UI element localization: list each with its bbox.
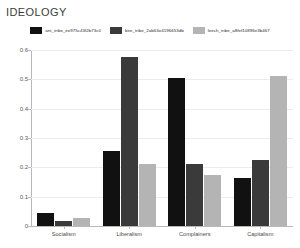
bar[interactable] xyxy=(73,218,90,226)
bar[interactable] xyxy=(234,178,251,226)
y-axis-tick-label: 0.4 xyxy=(6,106,28,112)
x-axis-tick-label: Capitalism xyxy=(247,231,273,237)
bar-group xyxy=(162,50,228,226)
x-axis-tick-mark xyxy=(195,226,196,229)
y-axis-tick-mark xyxy=(28,197,31,198)
chart-title: IDEOLOGY xyxy=(6,6,67,18)
plot-area xyxy=(31,50,293,226)
y-axis-tick-label: 0.5 xyxy=(6,76,28,82)
bar-chart: IDEOLOGY ant_tribe_ee975c43f2b73c0 bee_t… xyxy=(0,0,300,248)
x-axis-tick-label: Liberalism xyxy=(117,231,143,237)
y-axis-tick-label: 0.3 xyxy=(6,135,28,141)
y-axis-tick-mark xyxy=(28,167,31,168)
bar[interactable] xyxy=(37,213,54,226)
x-axis-tick-label: Complainers xyxy=(179,231,210,237)
y-axis-tick-mark xyxy=(28,109,31,110)
legend-label: leech_tribe_a8fef10896e3b467 xyxy=(208,28,270,33)
legend-item[interactable]: leech_tribe_a8fef10896e3b467 xyxy=(193,27,270,34)
legend-label: ant_tribe_ee975c43f2b73c0 xyxy=(45,28,101,33)
bar[interactable] xyxy=(139,164,156,226)
legend-item[interactable]: bee_tribe_2ab63e4196653db xyxy=(110,27,184,34)
y-axis-tick-label: 0.1 xyxy=(6,194,28,200)
y-axis-tick-label: 0.2 xyxy=(6,164,28,170)
bar[interactable] xyxy=(204,175,221,226)
y-axis-tick-label: 0.6 xyxy=(6,47,28,53)
legend-swatch-icon xyxy=(110,27,122,34)
y-axis-tick-mark xyxy=(28,79,31,80)
x-axis-tick-label: Socialism xyxy=(52,231,76,237)
x-axis-tick-mark xyxy=(260,226,261,229)
bar[interactable] xyxy=(168,78,185,226)
bar[interactable] xyxy=(252,160,269,226)
y-axis-tick-mark xyxy=(28,50,31,51)
bar-group xyxy=(31,50,97,226)
legend-item[interactable]: ant_tribe_ee975c43f2b73c0 xyxy=(30,27,101,34)
legend-swatch-icon xyxy=(193,27,205,34)
bar[interactable] xyxy=(121,57,138,226)
legend-label: bee_tribe_2ab63e4196653db xyxy=(125,28,184,33)
x-axis-tick-mark xyxy=(64,226,65,229)
y-axis-tick-mark xyxy=(28,226,31,227)
bar[interactable] xyxy=(270,76,287,226)
y-axis-tick-mark xyxy=(28,138,31,139)
bar[interactable] xyxy=(103,151,120,226)
x-axis-tick-mark xyxy=(129,226,130,229)
chart-legend: ant_tribe_ee975c43f2b73c0 bee_tribe_2ab6… xyxy=(0,27,300,34)
legend-swatch-icon xyxy=(30,27,42,34)
y-axis-tick-label: 0 xyxy=(6,223,28,229)
bar[interactable] xyxy=(186,164,203,226)
x-axis-line xyxy=(31,226,293,227)
bar-group xyxy=(97,50,163,226)
bar-group xyxy=(228,50,294,226)
